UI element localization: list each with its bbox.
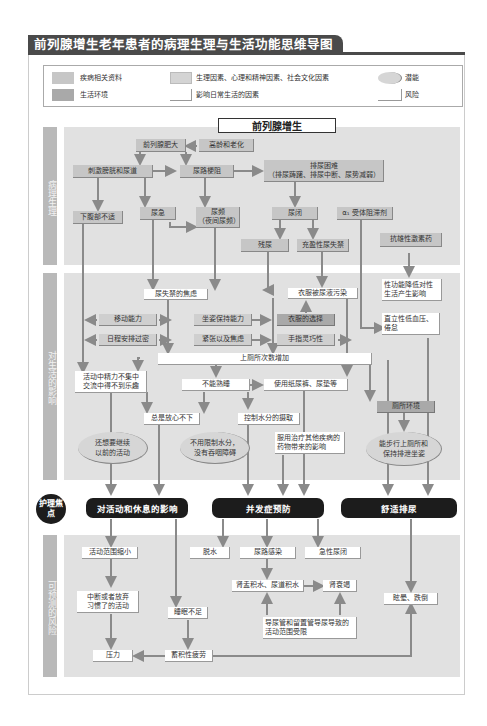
- risk-dehydration: 脱水: [190, 547, 230, 559]
- node-sexual: 性功能降低对性 生活产生影响: [382, 279, 442, 301]
- node-retention: 尿闭: [272, 207, 318, 220]
- potential-continue-activity: 还想要继续 以前的活动: [78, 432, 148, 464]
- risk-renal-failure: 肾衰竭: [323, 580, 357, 592]
- node-sitting: 坐姿保持能力: [194, 314, 252, 326]
- risk-acute-retention: 急性尿闭: [305, 547, 361, 559]
- risk-dizzy-fall: 眩晕、跌倒: [384, 593, 438, 605]
- risk-fatigue: 蓄积性疲劳: [165, 650, 213, 662]
- node-aging: 高龄和老化: [199, 139, 254, 152]
- risk-catheter: 导尿管和留置管导尿导致的 活动范围受限: [263, 617, 357, 639]
- node-dexterity: 手指灵巧性: [277, 334, 335, 346]
- node-antiandrogen: 抗雄性激素药: [380, 233, 442, 247]
- node-alpha-blocker: α₁ 受体阻滞剂: [337, 207, 393, 220]
- node-no-sleep: 不能熟睡: [182, 379, 250, 391]
- focus-complications: 并发症预防: [212, 498, 324, 518]
- node-clothes-soiled: 衣服被尿液污染: [288, 288, 358, 299]
- risk-hydronephrosis: 肾盂积水、尿道积水: [232, 580, 304, 592]
- node-toilet-more: 上厕所次数增加: [158, 353, 372, 365]
- node-obstruction: 尿路梗阻: [180, 165, 234, 178]
- node-toilet-env: 厕所环境: [377, 401, 435, 413]
- risk-activity-shrink: 活动范围缩小: [82, 547, 138, 559]
- node-concentration: 活动中精力不集中 交流中得不到乐趣: [75, 371, 147, 393]
- node-residual: 残尿: [241, 239, 289, 252]
- risk-quit-activity: 中断或者放弃 习惯了的活动: [77, 591, 139, 613]
- main-topic-bph: 前列腺增生: [218, 118, 336, 133]
- node-clothing-choice: 衣服的选择: [277, 314, 335, 326]
- node-frequency: 尿频 （夜间尿频）: [196, 207, 240, 228]
- node-orthostatic: 直立性低血压、 倦怠: [382, 313, 440, 335]
- node-bph-enlarge: 前列腺肥大: [136, 139, 186, 152]
- node-water-control: 控制水分的摄取: [238, 413, 300, 425]
- focus-comfortable: 舒适排尿: [341, 498, 457, 518]
- potential-can-walk: 能步行上厕所和 保持排泄坐姿: [366, 432, 442, 466]
- node-diapers: 使用纸尿裤、尿垫等: [264, 379, 348, 391]
- node-lower-abd: 下腹部不适: [73, 211, 123, 224]
- risk-uti: 尿路感染: [240, 547, 296, 559]
- risk-stress: 压力: [93, 650, 133, 662]
- focus-activity-rest: 对活动和休息的影响: [86, 498, 188, 518]
- node-overflow: 充盈性尿失禁: [297, 239, 349, 252]
- node-difficulty: 排尿困难 （排尿踌躇、排尿中断、尿势减弱）: [264, 160, 384, 182]
- node-irritation: 刺激膀胱和尿道: [73, 165, 153, 178]
- node-worry: 总是放心不下: [144, 413, 200, 425]
- node-urgency: 尿急: [140, 207, 176, 220]
- risk-sleep-lack: 睡眠不足: [168, 607, 208, 619]
- node-incont-anxiety: 尿失禁的焦虑: [144, 289, 208, 300]
- node-tension: 紧张以及焦虑: [194, 334, 252, 346]
- node-other-meds: 服用治疗其他疾病的 药物带来的影响: [275, 432, 345, 454]
- node-mobility: 移动能力: [99, 314, 157, 326]
- potential-no-water-limit: 不用限制水分， 没有吞咽障碍: [180, 432, 250, 464]
- node-schedule: 日程安排过密: [99, 334, 157, 346]
